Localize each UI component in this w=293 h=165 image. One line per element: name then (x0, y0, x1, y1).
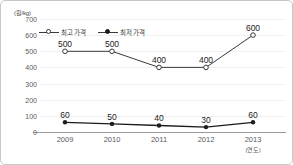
x-tick-2012: 2012 (183, 135, 229, 144)
gridline (41, 19, 284, 20)
y-axis-tick-labels: 700 600 500 400 300 200 100 0 (9, 19, 37, 132)
gridline (41, 84, 284, 85)
data-label-low: 30 (189, 115, 223, 125)
x-tick-label: 2012 (198, 135, 215, 144)
x-tick-2011: 2011 (136, 135, 182, 144)
y-tick-300: 300 (13, 80, 37, 87)
x-axis-tick-labels: 2009 2010 2011 2012 2013 (연도) (41, 135, 284, 163)
x-tick-2010: 2010 (89, 135, 135, 144)
x-axis-unit-label: (연도) (230, 145, 276, 154)
x-tick-2009: 2009 (42, 135, 88, 144)
y-tick-400: 400 (13, 64, 37, 71)
y-tick-200: 200 (13, 96, 37, 103)
y-tick-500: 500 (13, 48, 37, 55)
x-tick-label: 2011 (151, 135, 167, 144)
open-circle-marker-icon (39, 28, 59, 36)
x-axis-line (33, 132, 286, 133)
data-label-low: 50 (95, 112, 129, 122)
gridline (41, 100, 284, 101)
gridline (41, 67, 284, 68)
y-tick-100: 100 (13, 112, 37, 119)
data-label-high: 400 (142, 55, 176, 65)
legend-item-low[interactable]: 최저 가격 (98, 27, 145, 37)
legend-label-high: 최고 가격 (61, 27, 86, 37)
chart-legend: 최고 가격 최저 가격 (39, 27, 145, 37)
y-tick-600: 600 (13, 32, 37, 39)
x-tick-2013: 2013 (연도) (230, 135, 276, 154)
x-tick-label: 2009 (57, 135, 74, 144)
data-label-high: 600 (236, 23, 270, 33)
chart-container: (원/kg) 700 600 500 400 300 200 100 0 (0, 0, 293, 165)
filled-circle-marker-icon (98, 28, 118, 36)
y-tick-0: 0 (13, 129, 37, 136)
legend-label-low: 최저 가격 (120, 27, 145, 37)
gridline (41, 51, 284, 52)
data-label-low: 40 (142, 113, 176, 123)
data-label-high: 400 (189, 55, 223, 65)
data-label-high: 500 (48, 39, 82, 49)
legend-item-high[interactable]: 최고 가격 (39, 27, 86, 37)
x-tick-label: 2010 (104, 135, 121, 144)
data-label-low: 60 (236, 110, 270, 120)
y-tick-700: 700 (13, 16, 37, 23)
data-label-high: 500 (95, 39, 129, 49)
x-tick-label: 2013 (245, 135, 262, 144)
data-label-low: 60 (48, 110, 82, 120)
